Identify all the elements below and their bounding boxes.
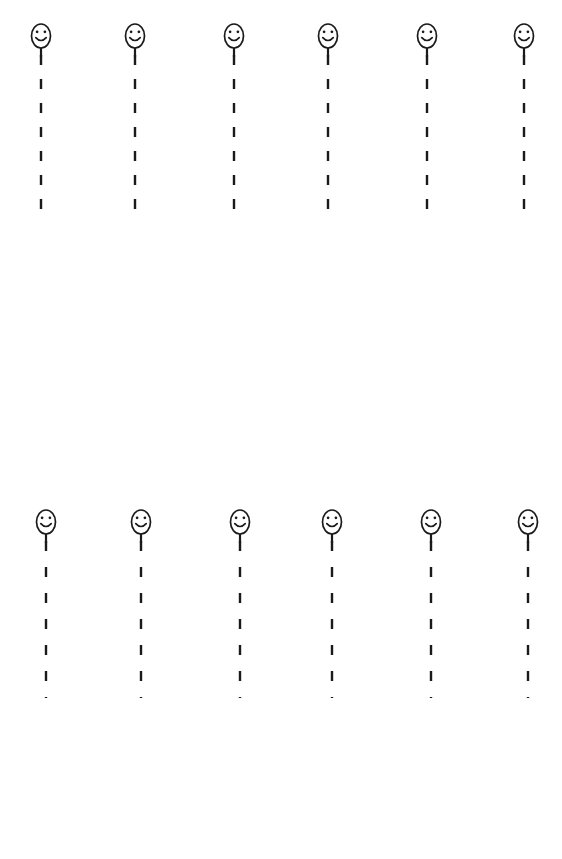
smiley-eye-icon — [527, 30, 530, 33]
worksheet-page — [0, 0, 562, 859]
smiley-face-icon — [32, 24, 51, 48]
smiley-eye-icon — [36, 30, 39, 33]
tracing-figure — [316, 508, 348, 718]
smiley-eye-icon — [323, 30, 326, 33]
smiley-eye-icon — [130, 30, 133, 33]
smiley-eye-icon — [41, 516, 44, 519]
smiley-eye-icon — [331, 30, 334, 33]
smiley-eye-icon — [136, 516, 139, 519]
tracing-figure — [125, 508, 157, 718]
tracing-figure — [415, 508, 447, 718]
tracing-figure — [30, 508, 62, 718]
smiley-eye-icon — [229, 30, 232, 33]
smiley-face-icon — [323, 510, 342, 534]
smiley-face-icon — [231, 510, 250, 534]
smiley-face-icon — [37, 510, 56, 534]
smiley-face-icon — [519, 510, 538, 534]
smiley-face-icon — [225, 24, 244, 48]
smiley-eye-icon — [519, 30, 522, 33]
smiley-eye-icon — [235, 516, 238, 519]
tracing-figure — [119, 22, 151, 232]
smiley-eye-icon — [49, 516, 52, 519]
smiley-face-icon — [319, 24, 338, 48]
smiley-eye-icon — [335, 516, 338, 519]
smiley-eye-icon — [531, 516, 534, 519]
smiley-face-icon — [515, 24, 534, 48]
smiley-eye-icon — [144, 516, 147, 519]
smiley-eye-icon — [327, 516, 330, 519]
tracing-figure — [224, 508, 256, 718]
tracing-figure — [512, 508, 544, 718]
smiley-eye-icon — [430, 30, 433, 33]
smiley-face-icon — [126, 24, 145, 48]
smiley-eye-icon — [138, 30, 141, 33]
smiley-eye-icon — [426, 516, 429, 519]
tracing-figure — [25, 22, 57, 232]
smiley-eye-icon — [44, 30, 47, 33]
smiley-face-icon — [132, 510, 151, 534]
tracing-figure — [411, 22, 443, 232]
smiley-eye-icon — [243, 516, 246, 519]
smiley-eye-icon — [237, 30, 240, 33]
smiley-eye-icon — [434, 516, 437, 519]
tracing-figure — [218, 22, 250, 232]
tracing-figure — [508, 22, 540, 232]
smiley-face-icon — [422, 510, 441, 534]
smiley-eye-icon — [523, 516, 526, 519]
smiley-eye-icon — [422, 30, 425, 33]
tracing-figure — [312, 22, 344, 232]
smiley-face-icon — [418, 24, 437, 48]
